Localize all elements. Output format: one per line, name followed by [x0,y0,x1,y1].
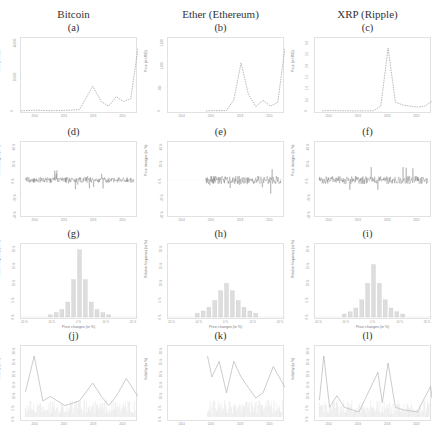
chart-svg [21,38,138,114]
panel-label: (i) [294,228,441,239]
y-tick: 5 % [158,298,162,303]
y-tick: 15 % [306,263,310,269]
y-tick: -20 % [160,194,164,201]
x-tick: 2018 [384,218,390,222]
x-tick: 2016 [61,422,67,426]
plot-area [167,243,284,319]
x-axis-ticks: 2014201620182020 [314,218,431,223]
y-tick: 10 % [159,280,163,286]
col-title-xrp: XRP (Ripple) [294,8,441,20]
chart-svg [168,142,285,218]
y-tick: -20 % [13,194,17,201]
y-tick: 30 % [159,348,163,354]
y-tick: 0.5 [305,98,309,102]
panel-h: (h)Relative frequency (in %)0 %5 %10 %15… [147,228,294,332]
y-tick: 20 % [12,370,16,376]
panel-label: (k) [147,330,294,341]
x-tick: -20 % [20,320,27,324]
y-tick: 20 % [159,370,163,376]
y-axis-label: Relative frequency (in %) [291,240,295,278]
y-axis-ticks: 0 %5 %10 %15 %20 % [11,243,19,319]
plot-area [20,345,137,421]
y-tick: -40 % [13,211,17,218]
y-tick: 1.0 [305,86,309,90]
y-tick: 20 % [12,246,16,252]
x-tick: 2020 [413,422,419,426]
x-tick: 2020 [119,422,125,426]
chart-svg [315,38,432,114]
y-tick: 5 % [11,298,15,303]
y-axis-ticks: 020,00040,000 [11,37,19,113]
y-tick: 15 % [306,382,310,388]
y-tick: 30 % [306,348,310,354]
y-tick: 0 [304,110,308,112]
x-tick: 2018 [384,114,390,118]
y-tick: 0 % [305,179,309,184]
panel-label: (l) [294,330,441,341]
y-axis-ticks: 0 %5 %10 %15 %20 % [158,243,166,319]
y-tick: 20 % [12,161,16,167]
y-tick: 2.5 [305,52,309,56]
x-tick: 2016 [355,114,361,118]
x-tick: 2014 [179,422,185,426]
panel-label: (d) [0,126,147,137]
col-title-ether: Ether (Ethereum) [147,8,294,20]
y-tick: 20 % [159,246,163,252]
x-axis-ticks: 2014201620182020 [167,114,284,119]
y-tick: 30 % [12,348,16,354]
y-tick: 5 % [305,405,309,410]
chart-svg [21,346,138,422]
panel-label: (j) [0,330,147,341]
y-tick: 0 % [305,417,309,422]
y-tick: 5 % [158,405,162,410]
y-tick: 40,000 [13,39,17,48]
plot-area [20,141,137,217]
y-axis-label: Volatility (in %) [144,358,148,380]
y-tick: 1,500 [160,40,164,47]
panel-d: (d)Price changes (in %)-40 %-20 %0 %20 %… [0,126,147,230]
y-tick: 15 % [12,382,16,388]
y-tick: 20 % [159,161,163,167]
x-tick: 2014 [179,218,185,222]
y-tick: 0 % [158,179,162,184]
chart-svg [315,142,432,218]
x-tick: 10 % [103,320,109,324]
x-tick: -10 % [48,320,55,324]
y-tick: 20 % [306,370,310,376]
x-tick: 2020 [266,422,272,426]
chart-svg [21,244,138,320]
y-tick: 0 % [11,315,15,320]
col-title-bitcoin: Bitcoin [0,8,147,20]
y-tick: 25 % [159,359,163,365]
y-axis-label: Price changes (in %) [144,145,148,176]
panel-i: (i)Relative frequency (in %)0 %5 %10 %15… [294,228,441,332]
y-tick: 15 % [12,263,16,269]
y-axis-label: Volatility (in %) [0,358,1,380]
x-axis-ticks: 2014201620182020 [167,422,284,427]
y-axis-ticks: -40 %-20 %0 %20 %40 % [11,141,19,217]
x-axis-ticks: 2014201620182020 [167,218,284,223]
y-tick: 10 % [12,393,16,399]
x-tick: 2016 [355,218,361,222]
panel-f: (f)Price changes (in %)-40 %-20 %0 %20 %… [294,126,441,230]
y-axis-ticks: 00.51.01.52.02.53.0 [305,37,313,113]
x-tick: 2016 [208,422,214,426]
x-tick: 2016 [208,218,214,222]
x-tick: -20 % [314,320,321,324]
x-tick: 2014 [326,114,332,118]
x-tick: -10 % [342,320,349,324]
x-tick: 2020 [413,114,419,118]
plot-area [314,141,431,217]
y-axis-label: Price changes (in %) [0,145,1,176]
x-axis-ticks: 2014201620182020 [20,422,137,427]
panel-label: (c) [294,22,441,33]
x-tick: 2018 [237,114,243,118]
y-axis-label: Relative frequency (in %) [0,240,1,278]
y-tick: 15 % [159,382,163,388]
y-tick: 20,000 [13,73,17,82]
x-tick: 2016 [355,422,361,426]
plot-area [167,141,284,217]
y-tick: -40 % [307,211,311,218]
y-axis-ticks: -40 %-20 %0 %20 %40 % [305,141,313,217]
x-tick: 2014 [32,114,38,118]
